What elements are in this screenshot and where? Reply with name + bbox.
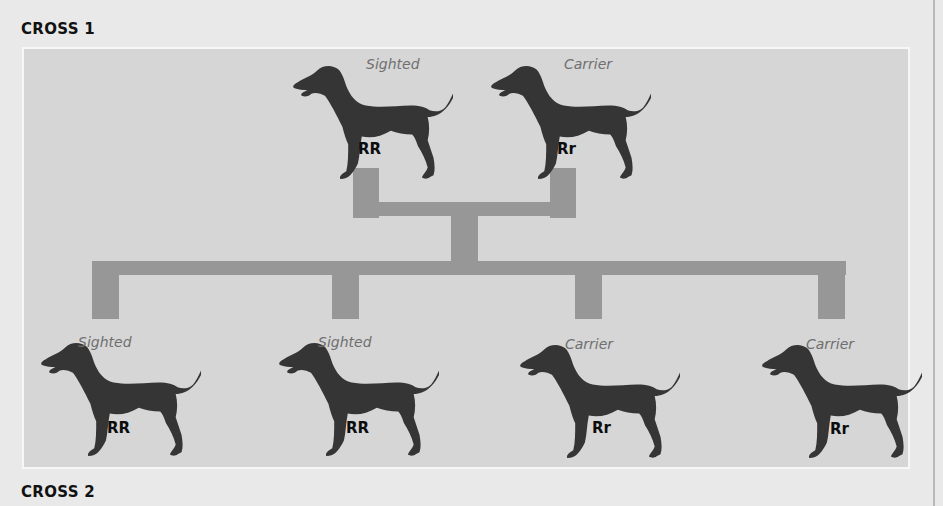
cross1-heading: CROSS 1 xyxy=(21,20,95,38)
page-edge xyxy=(933,0,935,506)
offspring3-dog-icon xyxy=(515,336,680,462)
cross1-panel: Sighted RR Carrier Rr Sighted RR Sighted… xyxy=(22,47,910,469)
offspring2-genotype: RR xyxy=(346,419,369,437)
parent1-genotype: RR xyxy=(358,140,381,158)
offspring1-drop xyxy=(92,261,119,319)
parent1-dog-icon xyxy=(288,57,453,183)
offspring4-drop xyxy=(818,261,845,319)
offspring3-genotype: Rr xyxy=(592,419,611,437)
offspring1-genotype: RR xyxy=(107,419,130,437)
offspring4-dog-icon xyxy=(757,336,922,462)
offspring3-phenotype: Carrier xyxy=(565,336,613,352)
offspring3-drop xyxy=(575,261,602,319)
parent2-dog-icon xyxy=(486,57,651,183)
cross2-heading: CROSS 2 xyxy=(21,483,95,501)
stem-connector xyxy=(451,202,478,266)
offspring2-drop xyxy=(332,261,359,319)
offspring1-phenotype: Sighted xyxy=(78,334,132,350)
offspring1-dog-icon xyxy=(36,334,201,460)
parent1-phenotype: Sighted xyxy=(366,56,420,72)
offspring2-phenotype: Sighted xyxy=(318,334,372,350)
parent2-genotype: Rr xyxy=(557,140,576,158)
parent2-phenotype: Carrier xyxy=(564,56,612,72)
offspring2-dog-icon xyxy=(274,334,439,460)
offspring4-genotype: Rr xyxy=(830,420,849,438)
offspring4-phenotype: Carrier xyxy=(806,336,854,352)
offspring-bar xyxy=(92,261,846,275)
